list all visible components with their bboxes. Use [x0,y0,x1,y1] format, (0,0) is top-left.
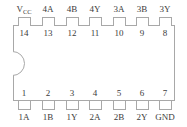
pin-number-5: 5 [111,88,127,98]
pin-tab-11 [89,17,102,26]
pin-number-7: 7 [157,88,173,98]
pin-tab-5 [113,101,126,110]
pin-tab-3 [66,101,79,110]
pin-tab-14 [18,17,31,26]
pin-tab-8 [159,17,172,26]
notch-edge-mask [13,52,14,75]
pin-number-14: 14 [16,28,32,38]
pin-number-12: 12 [64,28,80,38]
ic-pinout-diagram: 14VCC134A124B114Y103A93B83Y11A21B31Y42A5… [0,0,187,127]
pin-tab-10 [113,17,126,26]
pin-tab-13 [42,17,55,26]
pin-tab-4 [89,101,102,110]
pin-number-9: 9 [134,28,150,38]
pin-tab-6 [136,101,149,110]
pin-number-4: 4 [87,88,103,98]
pin-number-2: 2 [40,88,56,98]
pin-number-10: 10 [111,28,127,38]
pin-number-13: 13 [40,28,56,38]
pin-label-base: V [16,4,23,14]
pin-tab-9 [136,17,149,26]
pin-tab-1 [18,101,31,110]
pin-tab-7 [159,101,172,110]
pin-label-3y: 3Y [148,4,182,14]
pin-number-3: 3 [64,88,80,98]
pin-tab-2 [42,101,55,110]
pin-label-gnd: GND [148,112,182,122]
pin-number-11: 11 [87,28,103,38]
pin-tab-12 [66,17,79,26]
pin-number-1: 1 [16,88,32,98]
pin-number-8: 8 [157,28,173,38]
pin-number-6: 6 [134,88,150,98]
